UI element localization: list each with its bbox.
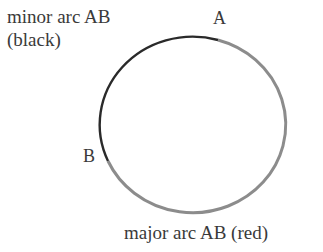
- point-b-label: B: [83, 145, 95, 167]
- minor-arc-color-label: (black): [7, 29, 61, 51]
- major-arc: [108, 40, 286, 213]
- point-a-label: A: [213, 7, 226, 29]
- minor-arc: [100, 37, 218, 161]
- minor-arc-label: minor arc AB: [7, 6, 110, 28]
- major-arc-label: major arc AB (red): [124, 222, 268, 244]
